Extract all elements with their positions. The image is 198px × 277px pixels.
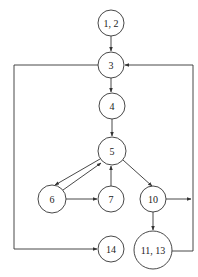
node-6: 6 (38, 185, 66, 213)
edge-5-to-10 (123, 160, 152, 186)
svg-text:14: 14 (106, 244, 116, 255)
svg-text:5: 5 (110, 146, 115, 157)
node-10: 10 (140, 186, 166, 212)
svg-text:7: 7 (109, 194, 114, 205)
node-11-13: 11, 13 (134, 231, 172, 269)
edge-5-to-6 (55, 159, 100, 185)
svg-text:6: 6 (50, 194, 55, 205)
control-flow-graph: 1, 2 3 4 5 6 7 10 14 (0, 0, 198, 277)
svg-text:4: 4 (110, 101, 115, 112)
node-5: 5 (98, 137, 126, 165)
svg-text:1, 2: 1, 2 (104, 18, 119, 29)
node-3: 3 (98, 52, 124, 78)
edge-6-to-5 (63, 163, 101, 190)
node-14: 14 (98, 236, 124, 262)
edge-3-to-14 (14, 65, 98, 249)
node-4: 4 (99, 93, 125, 119)
edge-11-13-to-3 (125, 65, 193, 251)
svg-text:10: 10 (148, 194, 158, 205)
svg-text:11, 13: 11, 13 (141, 245, 166, 256)
node-7: 7 (98, 186, 124, 212)
svg-text:3: 3 (109, 60, 114, 71)
node-1-2: 1, 2 (98, 10, 124, 36)
nodes: 1, 2 3 4 5 6 7 10 14 (38, 10, 172, 269)
